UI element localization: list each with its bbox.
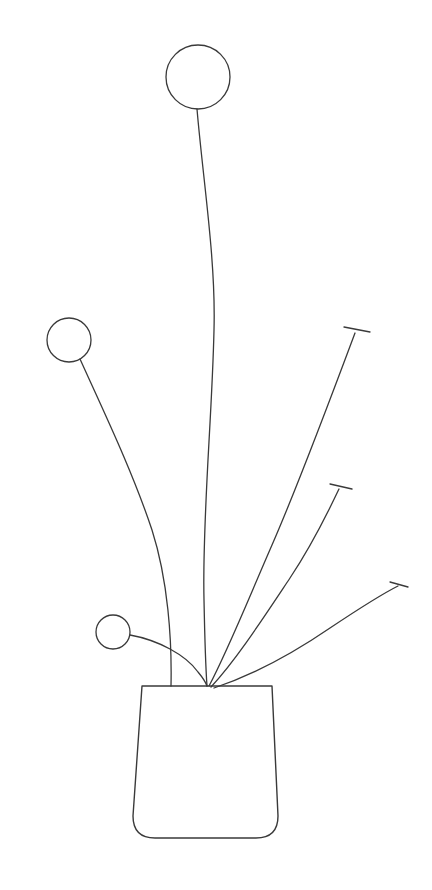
flower-head-small-icon	[96, 615, 130, 649]
stem-top-flower	[197, 109, 214, 686]
plant-pot	[133, 686, 278, 838]
bud-tip-upper-right-icon	[344, 327, 370, 332]
potted-plant-illustration	[0, 0, 432, 890]
stem-left-flower	[80, 359, 171, 686]
stem-middle-right-bud	[211, 489, 339, 687]
stem-upper-right-bud	[209, 333, 355, 686]
stem-small-flower	[130, 635, 207, 686]
flower-head-top-icon	[166, 45, 230, 109]
bud-tip-middle-right-icon	[330, 484, 352, 489]
stem-lower-right-bud	[214, 586, 398, 688]
artwork-canvas	[0, 0, 432, 890]
bud-tip-lower-right-icon	[390, 582, 408, 587]
flower-head-left-icon	[47, 318, 91, 362]
